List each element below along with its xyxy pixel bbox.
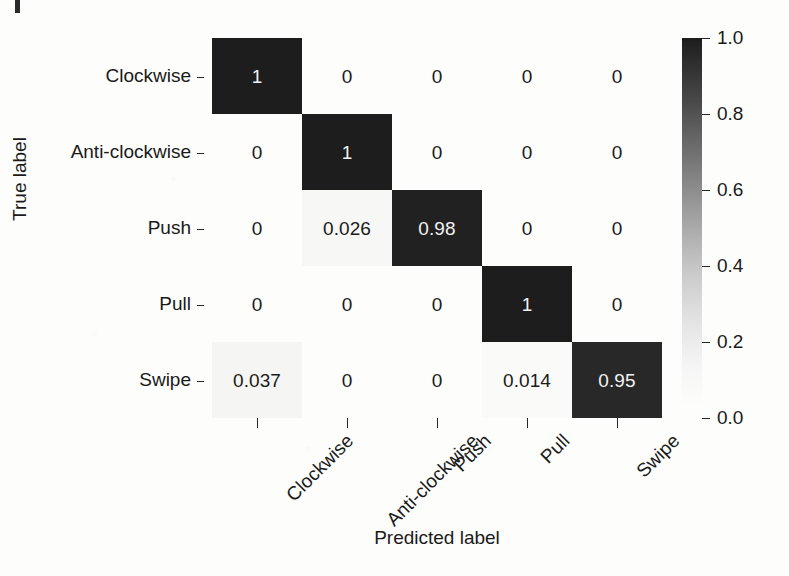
- matrix-cell-value-2-3: 0: [522, 219, 533, 238]
- matrix-cell-1-3: 0: [482, 114, 572, 190]
- matrix-cell-1-2: 0: [392, 114, 482, 190]
- matrix-cell-value-4-4: 0.95: [598, 371, 635, 390]
- colorbar-tick-label-3: 0.4: [717, 255, 743, 277]
- matrix-cell-1-1: 1: [302, 114, 392, 190]
- matrix-cell-value-1-0: 0: [252, 143, 263, 162]
- matrix-cell-value-4-1: 0: [342, 371, 353, 390]
- matrix-cell-value-0-2: 0: [432, 67, 443, 86]
- y-tick-label-1: Anti-clockwise: [71, 141, 191, 163]
- colorbar-tick-1: 0.8: [702, 103, 743, 125]
- matrix-cell-value-2-0: 0: [252, 219, 263, 238]
- y-tick-dash-1: [197, 153, 204, 154]
- x-tick-mark-3: [527, 418, 528, 428]
- matrix-cell-3-2: 0: [392, 266, 482, 342]
- matrix-cell-0-2: 0: [392, 38, 482, 114]
- confusion-matrix-grid: 1 0 0 0 0 0 1 0 0 0 0 0.026 0.98 0 0 0 0…: [212, 38, 662, 418]
- x-tick-mark-wrap-1: [302, 418, 392, 430]
- y-tick-label-4: Swipe: [139, 369, 191, 391]
- matrix-cell-4-4: 0.95: [572, 342, 662, 418]
- colorbar-tick-2: 0.6: [702, 179, 743, 201]
- y-tick-label-0: Clockwise: [105, 65, 191, 87]
- matrix-cell-value-0-1: 0: [342, 67, 353, 86]
- x-axis-tick-marks: [212, 418, 662, 430]
- colorbar-tick-dash-4: [702, 342, 710, 343]
- matrix-cell-3-3: 1: [482, 266, 572, 342]
- page-edge-mark: [15, 0, 20, 13]
- colorbar-tick-label-5: 0.0: [717, 407, 743, 429]
- colorbar-tick-dash-2: [702, 190, 710, 191]
- matrix-cell-2-0: 0: [212, 190, 302, 266]
- matrix-cell-value-4-3: 0.014: [503, 371, 551, 390]
- matrix-cell-3-4: 0: [572, 266, 662, 342]
- colorbar-tick-dash-0: [702, 38, 710, 39]
- matrix-cell-value-1-4: 0: [612, 143, 623, 162]
- matrix-cell-value-0-3: 0: [522, 67, 533, 86]
- matrix-cell-value-0-4: 0: [612, 67, 623, 86]
- matrix-cell-value-1-3: 0: [522, 143, 533, 162]
- matrix-cell-value-2-2: 0.98: [418, 219, 455, 238]
- matrix-cell-0-4: 0: [572, 38, 662, 114]
- y-tick-dash-0: [197, 77, 204, 78]
- matrix-cell-value-0-0: 1: [252, 67, 263, 86]
- matrix-cell-value-3-1: 0: [342, 295, 353, 314]
- y-axis-tick-labels: Clockwise Anti-clockwise Push Pull Swipe: [0, 38, 204, 418]
- x-tick-mark-wrap-4: [572, 418, 662, 430]
- matrix-cell-value-2-1: 0.026: [323, 219, 371, 238]
- matrix-cell-value-3-2: 0: [432, 295, 443, 314]
- matrix-cell-value-1-1: 1: [342, 143, 353, 162]
- x-axis-title: Predicted label: [212, 527, 662, 549]
- matrix-cell-3-1: 0: [302, 266, 392, 342]
- y-tick-4: Swipe: [0, 342, 204, 418]
- colorbar-tick-label-0: 1.0: [717, 27, 743, 49]
- matrix-cell-0-3: 0: [482, 38, 572, 114]
- matrix-cell-4-1: 0: [302, 342, 392, 418]
- y-tick-label-3: Pull: [159, 293, 191, 315]
- matrix-cell-value-4-0: 0.037: [233, 371, 281, 390]
- y-tick-1: Anti-clockwise: [0, 114, 204, 190]
- matrix-cell-3-0: 0: [212, 266, 302, 342]
- matrix-cell-4-2: 0: [392, 342, 482, 418]
- y-tick-dash-4: [197, 381, 204, 382]
- colorbar-tick-4: 0.2: [702, 331, 743, 353]
- colorbar-tick-3: 0.4: [702, 255, 743, 277]
- matrix-cell-1-0: 0: [212, 114, 302, 190]
- colorbar-gradient: [682, 38, 702, 418]
- y-tick-0: Clockwise: [0, 38, 204, 114]
- matrix-cell-value-2-4: 0: [612, 219, 623, 238]
- x-tick-label-0: Clockwise: [282, 430, 358, 506]
- matrix-cell-value-3-3: 1: [522, 295, 533, 314]
- colorbar-tick-dash-1: [702, 114, 710, 115]
- matrix-cell-2-4: 0: [572, 190, 662, 266]
- colorbar-tick-labels: 1.0 0.8 0.6 0.4 0.2 0.0: [702, 38, 782, 418]
- x-tick-label-4: Swipe: [632, 430, 684, 482]
- y-tick-dash-3: [197, 305, 204, 306]
- x-tick-mark-2: [437, 418, 438, 428]
- matrix-cell-4-3: 0.014: [482, 342, 572, 418]
- y-tick-2: Push: [0, 190, 204, 266]
- colorbar-tick-label-4: 0.2: [717, 331, 743, 353]
- colorbar-tick-dash-5: [702, 418, 710, 419]
- x-tick-label-3: Pull: [536, 430, 574, 468]
- x-tick-mark-1: [347, 418, 348, 428]
- y-tick-label-2: Push: [148, 217, 191, 239]
- colorbar: [682, 38, 702, 418]
- x-tick-mark-wrap-2: [392, 418, 482, 430]
- matrix-cell-value-3-4: 0: [612, 295, 623, 314]
- matrix-cell-2-2: 0.98: [392, 190, 482, 266]
- matrix-cell-value-3-0: 0: [252, 295, 263, 314]
- y-tick-3: Pull: [0, 266, 204, 342]
- matrix-cell-2-1: 0.026: [302, 190, 392, 266]
- matrix-cell-0-0: 1: [212, 38, 302, 114]
- x-tick-mark-wrap-0: [212, 418, 302, 430]
- confusion-matrix-figure: True label Clockwise Anti-clockwise Push…: [0, 0, 789, 576]
- colorbar-tick-label-1: 0.8: [717, 103, 743, 125]
- colorbar-tick-label-2: 0.6: [717, 179, 743, 201]
- x-tick-mark-0: [257, 418, 258, 428]
- matrix-cell-2-3: 0: [482, 190, 572, 266]
- matrix-cell-1-4: 0: [572, 114, 662, 190]
- colorbar-tick-0: 1.0: [702, 27, 743, 49]
- x-tick-mark-4: [617, 418, 618, 428]
- matrix-cell-4-0: 0.037: [212, 342, 302, 418]
- colorbar-tick-dash-3: [702, 266, 710, 267]
- matrix-cell-0-1: 0: [302, 38, 392, 114]
